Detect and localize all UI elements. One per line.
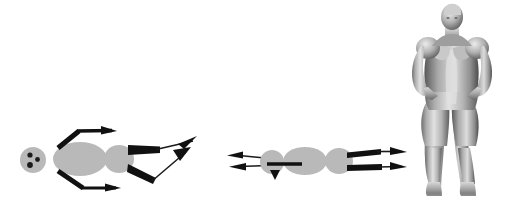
top-view-face-dot [27, 162, 33, 168]
top-view-face-dot [27, 152, 32, 157]
figure-top-view [20, 126, 197, 192]
top-view-upper-right-arrowhead [178, 136, 197, 149]
top-view-lower-right-arrowhead [173, 147, 191, 161]
diagram-canvas: Human body posture diagrams with anatomi… [0, 0, 510, 205]
side-view-front-lower-arrowhead [229, 163, 246, 171]
bodybuilder-reference-figure [406, 4, 502, 205]
stick-figures-layer [0, 0, 510, 205]
side-view-back-upper-arrowhead [390, 147, 407, 155]
anatomy-bottom-fade [406, 193, 502, 205]
top-view-head [20, 147, 46, 173]
side-view-back-lower-thick-arm [347, 164, 382, 171]
top-view-upper-right-thick-arm [128, 145, 160, 155]
anatomy-trapezius [432, 34, 472, 46]
figure-side-view [227, 147, 407, 180]
top-view-lower-right-thick-arm [127, 164, 156, 184]
top-view-face-dot [35, 157, 40, 162]
side-view-front-upper-arrowhead [227, 152, 243, 159]
side-view-back-upper-thick-arm [347, 149, 381, 158]
top-view-lower-left-arrowhead [105, 184, 121, 192]
anatomy-skull-cap [444, 4, 461, 15]
side-view-back-lower-arrowhead [390, 162, 407, 170]
top-view-upper-left-arrowhead [101, 126, 117, 135]
side-view-torso [283, 147, 327, 175]
anatomy-left-eye [446, 17, 449, 19]
anatomy-right-eye [454, 17, 457, 19]
anatomy-left-calf [425, 148, 442, 184]
anatomy-abdominals [446, 50, 458, 104]
side-view-chin-arrowhead [270, 170, 280, 180]
